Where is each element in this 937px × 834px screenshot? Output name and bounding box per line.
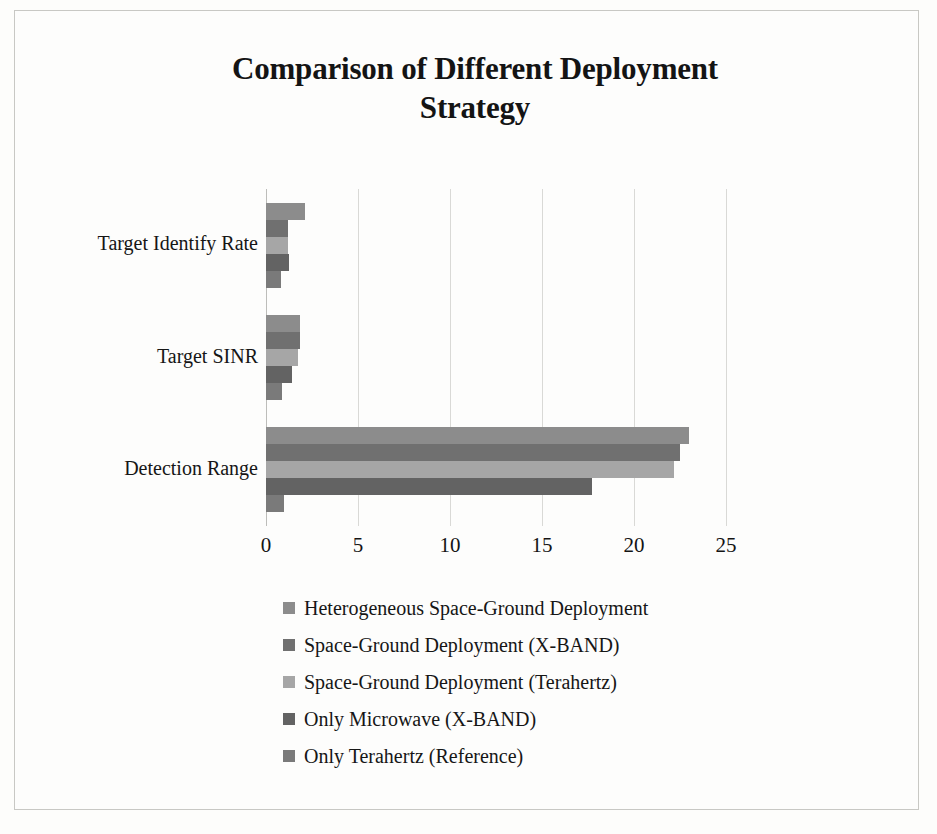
legend-label: Only Microwave (X-BAND): [304, 709, 536, 729]
chart-legend: Heterogeneous Space-Ground DeploymentSpa…: [283, 589, 843, 774]
legend-item[interactable]: Space-Ground Deployment (Terahertz): [283, 663, 843, 700]
x-tick-label-5: 5: [353, 533, 364, 558]
chart-title: Comparison of Different Deployment Strat…: [135, 49, 815, 128]
legend-label: Heterogeneous Space-Ground Deployment: [304, 598, 648, 618]
chart-frame: Comparison of Different Deployment Strat…: [14, 10, 919, 810]
category-label-target-sinr: Target SINR: [28, 345, 258, 368]
legend-item[interactable]: Only Terahertz (Reference): [283, 737, 843, 774]
bar-groups: [266, 189, 726, 526]
bar[interactable]: [266, 220, 288, 237]
bar[interactable]: [266, 495, 284, 512]
bar[interactable]: [266, 427, 689, 444]
x-tick-label-20: 20: [624, 533, 645, 558]
x-axis-tick-labels: 0510152025: [266, 533, 726, 563]
bar[interactable]: [266, 349, 298, 366]
bar[interactable]: [266, 366, 292, 383]
legend-item[interactable]: Heterogeneous Space-Ground Deployment: [283, 589, 843, 626]
legend-label: Space-Ground Deployment (Terahertz): [304, 672, 617, 692]
bar[interactable]: [266, 444, 680, 461]
x-tick-label-0: 0: [261, 533, 272, 558]
plot-area: [266, 189, 726, 526]
x-tick-label-10: 10: [440, 533, 461, 558]
bar[interactable]: [266, 332, 300, 349]
bar-group: [266, 427, 726, 512]
chart-title-line-1: Comparison of Different Deployment: [135, 49, 815, 88]
bar[interactable]: [266, 461, 674, 478]
bar[interactable]: [266, 271, 281, 288]
bar-group: [266, 315, 726, 400]
legend-label: Only Terahertz (Reference): [304, 746, 523, 766]
gridline-25: [726, 189, 727, 526]
category-label-detection-range: Detection Range: [28, 457, 258, 480]
category-label-target-identify-rate: Target Identify Rate: [28, 232, 258, 255]
legend-label: Space-Ground Deployment (X-BAND): [304, 635, 619, 655]
legend-item[interactable]: Space-Ground Deployment (X-BAND): [283, 626, 843, 663]
bar[interactable]: [266, 315, 300, 332]
bar-group: [266, 203, 726, 288]
bar[interactable]: [266, 203, 305, 220]
legend-item[interactable]: Only Microwave (X-BAND): [283, 700, 843, 737]
chart-title-line-2: Strategy: [135, 88, 815, 127]
x-tick-label-15: 15: [532, 533, 553, 558]
y-axis-category-labels: Target Identify RateTarget SINRDetection…: [20, 189, 258, 526]
legend-swatch-icon: [283, 639, 295, 651]
page-background: Comparison of Different Deployment Strat…: [0, 0, 937, 834]
bar[interactable]: [266, 478, 592, 495]
bar[interactable]: [266, 254, 289, 271]
bar[interactable]: [266, 237, 288, 254]
x-tick-label-25: 25: [716, 533, 737, 558]
legend-swatch-icon: [283, 750, 295, 762]
bar[interactable]: [266, 383, 282, 400]
legend-swatch-icon: [283, 713, 295, 725]
legend-swatch-icon: [283, 676, 295, 688]
legend-swatch-icon: [283, 602, 295, 614]
